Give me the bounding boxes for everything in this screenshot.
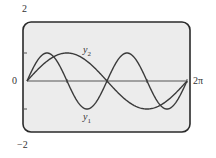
legend-y1: y1 (83, 112, 91, 125)
legend-y2-sub: 2 (87, 50, 91, 58)
y-label-bottom: −2 (17, 140, 28, 150)
x-label-end: 2π (193, 76, 203, 86)
legend-y1-sub: 1 (87, 117, 91, 125)
legend-y2: y2 (83, 45, 91, 58)
plot-frame (23, 22, 190, 132)
y-label-top: 2 (22, 4, 27, 14)
plot-svg (0, 0, 216, 158)
y-label-zero: 0 (12, 76, 17, 86)
